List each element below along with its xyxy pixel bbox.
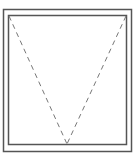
window-elevation-drawing (0, 0, 136, 161)
opening-indicator-right (67, 16, 126, 144)
window-diagram: window-elevation-symbol (0, 0, 136, 161)
opening-indicator-left (9, 16, 67, 144)
inner-sash (9, 16, 127, 145)
outer-frame (4, 10, 132, 152)
